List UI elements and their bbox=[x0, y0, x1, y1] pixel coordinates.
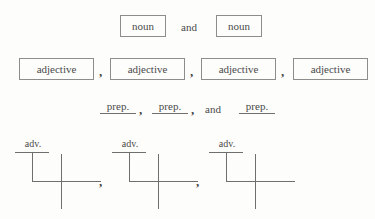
diagram-separator-1: , bbox=[99, 174, 102, 190]
adjective-box-1[interactable]: adjective bbox=[19, 58, 94, 80]
sentence-diagram-3[interactable]: adv. bbox=[207, 138, 299, 210]
preposition-slot-2[interactable]: prep. bbox=[152, 101, 188, 114]
preposition-slot-1[interactable]: prep. bbox=[100, 101, 136, 114]
diagram-3-base-line bbox=[226, 181, 295, 182]
diagram-3-divider-line bbox=[255, 154, 256, 209]
noun-box-1[interactable]: noun bbox=[120, 15, 166, 37]
sentence-diagram-2[interactable]: adv. bbox=[110, 138, 202, 210]
adjective-box-1-label: adjective bbox=[37, 64, 77, 75]
adjective-separator-1: , bbox=[99, 64, 102, 80]
adjective-box-3-label: adjective bbox=[219, 64, 259, 75]
diagram-1-drop-line bbox=[32, 152, 33, 181]
adjective-box-2[interactable]: adjective bbox=[110, 58, 185, 80]
diagram-2-drop-line bbox=[129, 152, 130, 181]
noun-box-2[interactable]: noun bbox=[216, 15, 262, 37]
diagram-2-divider-line bbox=[158, 154, 159, 209]
noun-box-2-label: noun bbox=[228, 21, 250, 32]
preposition-separator-2: , bbox=[191, 102, 194, 118]
diagram-2-adverb-label: adv. bbox=[113, 138, 147, 149]
diagram-1-adverb-label: adv. bbox=[16, 138, 50, 149]
preposition-slot-3[interactable]: prep. bbox=[239, 101, 275, 114]
noun-box-1-label: noun bbox=[132, 21, 154, 32]
adjective-box-4[interactable]: adjective bbox=[293, 58, 368, 80]
adjective-box-4-label: adjective bbox=[311, 64, 351, 75]
sentence-diagram-1[interactable]: adv. bbox=[13, 138, 105, 210]
adjective-separator-3: , bbox=[281, 64, 284, 80]
adjective-box-3[interactable]: adjective bbox=[201, 58, 276, 80]
diagram-2-base-line bbox=[129, 181, 198, 182]
diagram-1-base-line bbox=[32, 181, 101, 182]
diagram-1-divider-line bbox=[61, 154, 62, 209]
diagram-separator-2: , bbox=[196, 174, 199, 190]
worksheet-page: noun and noun adjective , adjective , ad… bbox=[0, 0, 375, 219]
preposition-separator-1: , bbox=[139, 102, 142, 118]
preposition-row-conjunction: and bbox=[205, 103, 221, 115]
noun-row-conjunction: and bbox=[181, 21, 197, 33]
adjective-box-2-label: adjective bbox=[128, 64, 168, 75]
diagram-3-drop-line bbox=[226, 152, 227, 181]
adjective-separator-2: , bbox=[190, 64, 193, 80]
diagram-3-adverb-label: adv. bbox=[210, 138, 244, 149]
